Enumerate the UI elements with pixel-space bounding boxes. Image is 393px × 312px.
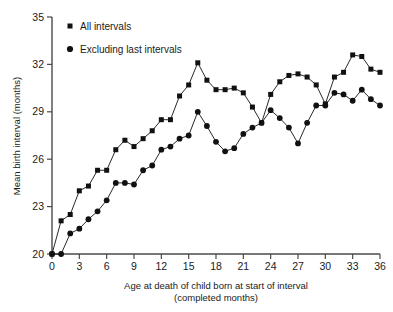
data-point	[177, 136, 183, 142]
data-point	[322, 103, 328, 109]
y-axis-ticks: 202326293235	[32, 11, 52, 260]
legend-item-label: Excluding last intervals	[80, 44, 182, 55]
x-axis-title-line-1: Age at death of child born at start of i…	[124, 280, 308, 291]
data-point	[149, 163, 155, 169]
legend-square-marker-icon	[68, 24, 73, 29]
y-tick-label: 35	[32, 11, 44, 23]
x-tick-label: 27	[292, 260, 304, 272]
y-tick-label: 29	[32, 105, 44, 117]
data-point	[277, 115, 283, 121]
x-tick-label: 30	[319, 260, 331, 272]
data-point	[341, 70, 346, 75]
series-line	[52, 90, 380, 254]
y-tick-label: 23	[32, 200, 44, 212]
data-point	[58, 251, 64, 257]
data-point	[177, 94, 182, 99]
data-point	[67, 231, 73, 237]
x-axis-title-line-2: (completed months)	[174, 292, 258, 303]
legend-circle-marker-icon	[67, 46, 73, 52]
y-axis-title: Mean birth interval (months)	[11, 77, 22, 195]
x-tick-label: 3	[76, 260, 82, 272]
data-series-layer	[49, 52, 383, 256]
data-point	[277, 79, 282, 84]
data-point	[122, 180, 128, 186]
y-tick-label: 26	[32, 153, 44, 165]
data-point	[350, 52, 355, 57]
x-tick-label: 33	[347, 260, 359, 272]
x-tick-label: 24	[265, 260, 277, 272]
data-point	[186, 133, 192, 139]
data-point	[140, 167, 146, 173]
data-point	[250, 125, 256, 131]
data-point	[314, 82, 319, 87]
data-point	[305, 75, 310, 80]
data-point	[296, 71, 301, 76]
birth-interval-chart: 202326293235 0369121518212427303336 All …	[0, 0, 393, 312]
data-point	[223, 87, 228, 92]
data-point	[158, 147, 164, 153]
data-point	[222, 148, 228, 154]
chart-legend: All intervalsExcluding last intervals	[67, 21, 182, 55]
chart-svg: 202326293235 0369121518212427303336 All …	[0, 0, 393, 312]
data-point	[141, 136, 146, 141]
data-point	[332, 75, 337, 80]
data-point	[214, 87, 219, 92]
data-point	[77, 188, 82, 193]
data-point	[232, 86, 237, 91]
data-point	[95, 208, 101, 214]
data-point	[378, 70, 383, 75]
series-line	[52, 55, 380, 254]
data-point	[113, 180, 119, 186]
data-point	[131, 182, 137, 188]
x-tick-label: 36	[374, 260, 386, 272]
data-point	[122, 138, 127, 143]
data-point	[368, 67, 373, 72]
y-tick-label: 32	[32, 58, 44, 70]
data-point	[213, 139, 219, 145]
data-point	[286, 73, 291, 78]
data-point	[368, 96, 374, 102]
data-point	[168, 144, 174, 150]
data-point	[59, 218, 64, 223]
data-point	[159, 117, 164, 122]
x-tick-label: 18	[210, 260, 222, 272]
data-point	[268, 92, 273, 97]
data-point	[350, 98, 356, 104]
data-point	[204, 123, 210, 129]
x-axis-ticks: 0369121518212427303336	[49, 254, 386, 272]
data-point	[76, 226, 82, 232]
data-point	[204, 78, 209, 83]
data-point	[68, 212, 73, 217]
data-point	[49, 251, 55, 257]
x-tick-label: 6	[104, 260, 110, 272]
data-point	[241, 90, 246, 95]
data-point	[150, 128, 155, 133]
data-point	[186, 82, 191, 87]
data-point	[240, 131, 246, 137]
y-tick-label: 20	[32, 248, 44, 260]
data-point	[95, 168, 100, 173]
data-point	[168, 117, 173, 122]
x-tick-label: 9	[131, 260, 137, 272]
data-point	[359, 87, 365, 93]
data-point	[104, 197, 110, 203]
data-point	[295, 141, 301, 147]
data-point	[104, 168, 109, 173]
data-point	[268, 107, 274, 113]
data-point	[195, 109, 201, 115]
x-tick-label: 15	[183, 260, 195, 272]
data-point	[286, 125, 292, 131]
data-point	[341, 92, 347, 98]
data-point	[113, 147, 118, 152]
data-point	[304, 120, 310, 126]
data-point	[250, 105, 255, 110]
data-point	[195, 60, 200, 65]
legend-item-label: All intervals	[80, 21, 131, 32]
data-point	[86, 184, 91, 189]
data-point	[359, 54, 364, 59]
data-point	[332, 90, 338, 96]
data-point	[313, 103, 319, 109]
x-tick-label: 21	[237, 260, 249, 272]
data-point	[86, 216, 92, 222]
x-tick-label: 12	[155, 260, 167, 272]
